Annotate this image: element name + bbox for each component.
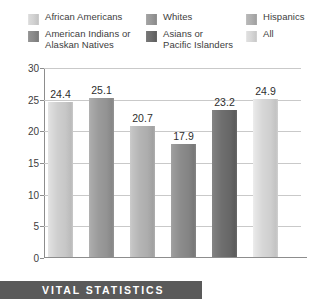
vital-statistics-chart: African Americans Whites Hispanics Ameri… [0,0,317,299]
bar-value-label: 17.9 [173,130,193,142]
bar-value-label: 25.1 [91,84,111,96]
legend-item-label: Asians or Pacific Islanders [163,29,233,50]
legend-item-label: American Indians or Alaskan Natives [45,29,130,50]
y-axis-tick-label: 15 [28,158,39,169]
y-axis-tick-label: 25 [28,94,39,105]
legend-swatch-icon [28,14,39,25]
y-axis-tick-label: 30 [28,63,39,74]
legend-swatch-icon [246,31,257,42]
bar-column: 23.2 [212,110,237,257]
bar-column: 24.4 [48,102,73,257]
legend-item-label: Whites [163,12,192,23]
y-axis-tick-label: 10 [28,189,39,200]
bar [130,126,155,257]
bar [48,102,73,257]
chart-legend: African Americans Whites Hispanics Ameri… [28,12,317,54]
vital-statistics-banner: VITAL STATISTICS [0,281,202,299]
plot-area: 051015202530 24.425.120.717.923.224.9 [44,68,301,258]
bar-value-label: 24.9 [255,85,275,97]
bar [253,99,278,257]
bar-series: 24.425.120.717.923.224.9 [44,68,301,257]
legend-item-hispanics: Hispanics [246,12,305,25]
bar-value-label: 20.7 [132,112,152,124]
legend-item-african-americans: African Americans [28,12,146,25]
bar-column: 25.1 [89,98,114,257]
y-axis-tick-label: 0 [33,253,39,264]
bar-column: 20.7 [130,126,155,257]
legend-swatch-icon [146,31,157,42]
legend-swatch-icon [28,31,39,42]
legend-swatch-icon [246,14,257,25]
legend-item-label: All [263,29,274,40]
legend-swatch-icon [146,14,157,25]
legend-item-whites: Whites [146,12,246,25]
legend-row-2: American Indians or Alaskan Natives Asia… [28,29,317,50]
legend-item-all: All [246,29,274,42]
x-axis-line [44,257,307,258]
legend-row-1: African Americans Whites Hispanics [28,12,317,25]
legend-item-asians-pacific-islanders: Asians or Pacific Islanders [146,29,246,50]
y-axis-tick-label: 5 [33,221,39,232]
bar-value-label: 24.4 [50,88,70,100]
legend-item-label: African Americans [45,12,122,23]
legend-item-american-indians-alaskan-natives: American Indians or Alaskan Natives [28,29,146,50]
banner-title: VITAL STATISTICS [0,284,164,296]
bar [171,144,196,257]
bar-column: 17.9 [171,144,196,257]
bar [89,98,114,257]
y-axis-tick-label: 20 [28,126,39,137]
legend-item-label: Hispanics [263,12,305,23]
bar-value-label: 23.2 [214,96,234,108]
bar-column: 24.9 [253,99,278,257]
bar [212,110,237,257]
y-axis-tick-mark [40,258,44,259]
